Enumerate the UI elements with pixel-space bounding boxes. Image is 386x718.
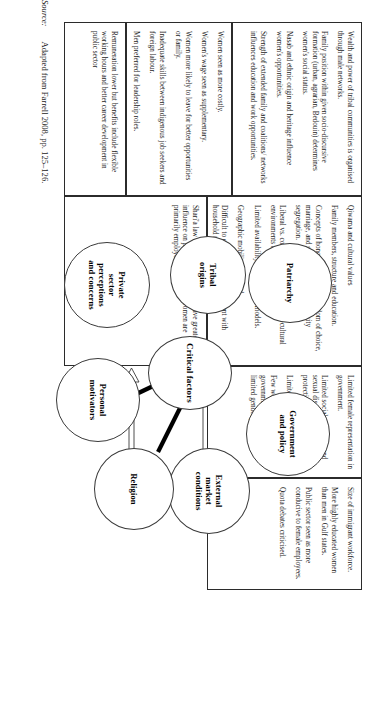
detail-line: Women seen as more costly. — [214, 31, 224, 187]
node-external-market-conditions[interactable]: External market conditions — [168, 448, 250, 534]
node-label: External market conditions — [194, 472, 224, 511]
detail-line: Qiwama and cultural values — [344, 205, 354, 357]
detail-line: Public sector seen as more conducive to … — [293, 487, 312, 581]
node-government-and-policy[interactable]: Government and policy — [246, 392, 330, 476]
detail-line: Women's wage seen as supplementary. — [198, 31, 208, 187]
source-text: Adapted from Farrell 2008, pp. 125–126. — [40, 42, 50, 184]
node-personal-motivators[interactable]: Personal motivators — [56, 358, 140, 442]
detail-line: Strength of extended family and coalitio… — [248, 31, 267, 187]
source-note: Source: Adapted from Farrell 2008, pp. 1… — [40, 0, 50, 718]
node-label: Private sector perceptions and concerns — [87, 260, 128, 310]
node-label: Personal motivators — [88, 380, 108, 421]
detail-line: Nasab and ethnic origin and heritage inf… — [274, 31, 293, 187]
node-label: Critical factors — [185, 343, 196, 403]
figure-page: Wealth and power of tribal communities i… — [0, 0, 386, 718]
node-label: Religion — [129, 473, 139, 504]
detail-line: Family position within given socio-discu… — [299, 31, 328, 187]
node-label: Patriarchy — [285, 263, 295, 303]
node-tribal-origins[interactable]: Tribal origins — [170, 236, 246, 314]
node-label: Government and policy — [278, 410, 298, 457]
detail-line: Inadequate skills between indigenous job… — [147, 31, 166, 187]
detail-line: More highly educated women than men in G… — [319, 487, 338, 581]
detail-line: Men preferred for leadership roles. — [131, 31, 141, 187]
detail-line: Women more likely to leave for better op… — [172, 31, 191, 187]
detail-box-personal: Remuneration lower but benefits include … — [64, 22, 126, 196]
node-religion[interactable]: Religion — [94, 448, 174, 530]
diagram-canvas: Wealth and power of tribal communities i… — [0, 0, 386, 718]
detail-line: Quota debates criticised. — [277, 487, 287, 581]
detail-box-private: Women seen as more costly. Women's wage … — [126, 22, 232, 196]
source-label: Source: — [40, 0, 50, 26]
rotated-figure: Wealth and power of tribal communities i… — [0, 0, 386, 718]
node-private-sector-perceptions[interactable]: Private sector perceptions and concerns — [64, 242, 150, 328]
detail-line: Size of immigrant workforce. — [344, 487, 354, 581]
detail-line: Remuneration lower but benefits include … — [89, 31, 118, 187]
detail-line: Wealth and power of tribal communities i… — [335, 31, 354, 187]
detail-box-tribal: Wealth and power of tribal communities i… — [232, 22, 362, 196]
node-critical-factors[interactable]: Critical factors — [148, 336, 232, 410]
node-label: Tribal origins — [198, 262, 218, 288]
node-patriarchy[interactable]: Patriarchy — [248, 243, 332, 323]
detail-line: Limited female representation in governm… — [335, 375, 354, 469]
